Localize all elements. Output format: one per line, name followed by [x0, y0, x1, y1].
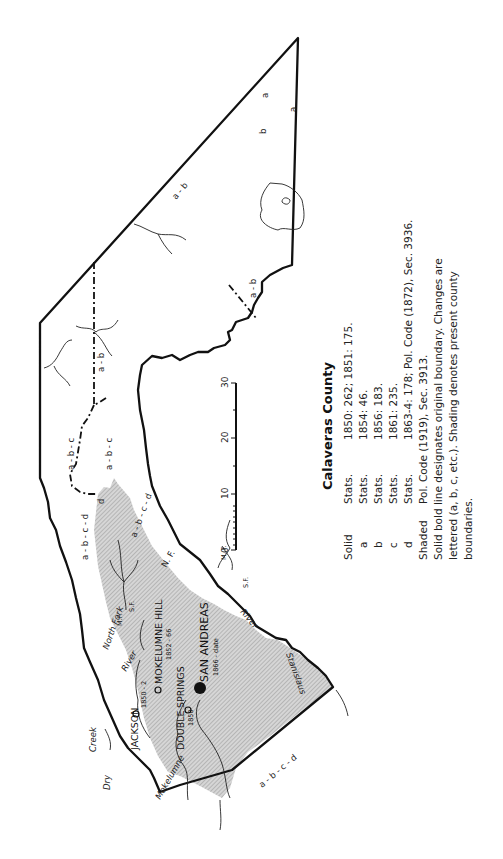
- legend-title: Calaveras County: [320, 362, 335, 490]
- svg-text:a - b - c - d: a - b - c - d: [257, 752, 299, 789]
- svg-text:S.F.: S.F.: [128, 601, 136, 612]
- svg-text:1850: 262; 1851: 175.: 1850: 262; 1851: 175.: [342, 323, 354, 441]
- label-jackson: JACKSON: [129, 708, 140, 751]
- svg-text:Pol. Code (1919), Sec. 3913.: Pol. Code (1919), Sec. 3913.: [417, 355, 429, 504]
- svg-text:a - b - c: a - b - c: [66, 437, 76, 470]
- label-mokelumne-hill-dates: 1852 - 66: [165, 629, 173, 660]
- svg-text:a: a: [288, 107, 298, 112]
- svg-text:b: b: [372, 541, 384, 548]
- svg-text:M.F.: M.F.: [116, 614, 124, 626]
- svg-text:Stats.: Stats.: [387, 474, 399, 504]
- svg-text:Dry: Dry: [102, 774, 112, 790]
- label-mokelumne-hill: MOKELUMNE HILL: [153, 599, 164, 684]
- label-san-andreas-dates: 1866 - date: [212, 638, 220, 676]
- svg-text:d: d: [402, 541, 414, 548]
- svg-text:b: b: [258, 129, 268, 134]
- svg-text:a - b: a - b: [248, 279, 258, 298]
- svg-text:M. F.: M. F.: [220, 545, 228, 560]
- svg-text:Stats.: Stats.: [372, 474, 384, 504]
- svg-text:S.F.: S.F.: [242, 577, 250, 588]
- label-double: DOUBLE: [175, 710, 186, 750]
- legend-note-1: Solid bold line designates original boun…: [432, 258, 444, 560]
- svg-text:a - b - c: a - b - c: [104, 437, 114, 470]
- label-double-springs-dates: 1850: [187, 709, 195, 726]
- svg-text:10: 10: [220, 487, 230, 499]
- svg-text:Stats.: Stats.: [357, 474, 369, 504]
- svg-text:Creek: Creek: [88, 726, 98, 752]
- svg-text:a - b: a - b: [170, 180, 190, 201]
- legend-note-2: lettered (a, b, c, etc.). Shading denote…: [447, 271, 459, 560]
- svg-text:20: 20: [220, 431, 230, 443]
- svg-text:c: c: [387, 542, 399, 548]
- san-andreas-marker: [194, 682, 206, 694]
- svg-text:N. F.: N. F.: [159, 548, 177, 569]
- label-jackson-dates: 1850 - 2: [140, 681, 148, 708]
- svg-text:a: a: [357, 542, 369, 548]
- svg-text:a: a: [260, 93, 270, 98]
- legend-note-3: boundaries.: [462, 498, 474, 560]
- svg-text:Shaded: Shaded: [417, 520, 429, 560]
- label-springs: SPRINGS: [175, 666, 186, 708]
- svg-text:Stats.: Stats.: [402, 474, 414, 504]
- svg-text:1854: 46.: 1854: 46.: [357, 390, 369, 440]
- svg-text:a - b - c - d: a - b - c - d: [80, 514, 90, 560]
- legend: Calaveras County Solid Stats. 1850: 262;…: [320, 220, 474, 560]
- svg-text:d: d: [96, 499, 106, 504]
- svg-text:1863-4: 178; Pol. Code (1872),: 1863-4: 178; Pol. Code (1872), Sec. 3936…: [402, 220, 414, 440]
- svg-text:1861: 235.: 1861: 235.: [387, 383, 399, 440]
- calaveras-county-map: Calaveras County Solid Stats. 1850: 262;…: [0, 0, 503, 859]
- svg-text:1856: 183.: 1856: 183.: [372, 383, 384, 440]
- svg-text:Stats.: Stats.: [342, 474, 354, 504]
- svg-text:Solid: Solid: [342, 534, 354, 560]
- svg-text:a - b: a - b: [96, 353, 106, 372]
- svg-text:30: 30: [220, 376, 230, 388]
- label-san-andreas: SAN ANDREAS: [198, 602, 211, 682]
